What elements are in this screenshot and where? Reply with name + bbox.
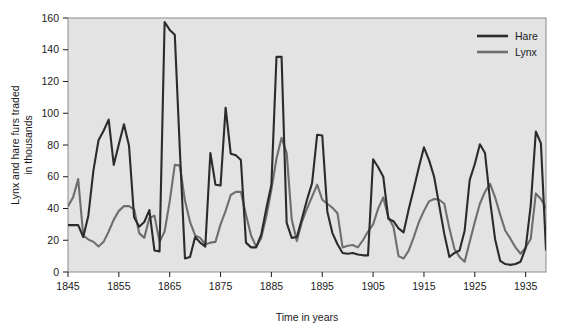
- svg-text:Lynx and hare furs traded: Lynx and hare furs traded: [9, 85, 21, 204]
- y-tick-label: 20: [47, 234, 59, 246]
- x-tick-label: 1875: [209, 280, 233, 292]
- legend-label-lynx: Lynx: [515, 46, 538, 58]
- x-tick-label: 1845: [56, 280, 80, 292]
- y-tick-label: 160: [41, 12, 59, 24]
- x-axis-title: Time in years: [276, 311, 339, 323]
- y-tick-label: 0: [53, 266, 59, 278]
- x-tick-label: 1865: [158, 280, 182, 292]
- y-tick-label: 60: [47, 170, 59, 182]
- y-tick-label: 120: [41, 75, 59, 87]
- y-tick-label: 80: [47, 139, 59, 151]
- x-tick-label: 1895: [311, 280, 335, 292]
- x-tick-label: 1855: [107, 280, 131, 292]
- svg-text:in thousands: in thousands: [22, 115, 34, 175]
- y-tick-label: 40: [47, 202, 59, 214]
- x-tick-label: 1915: [412, 280, 436, 292]
- x-tick-label: 1925: [463, 280, 487, 292]
- x-tick-label: 1905: [361, 280, 385, 292]
- y-tick-label: 100: [41, 107, 59, 119]
- x-tick-label: 1885: [260, 280, 284, 292]
- line-chart: 020406080100120140160 184518551865187518…: [0, 0, 564, 334]
- y-tick-label: 140: [41, 43, 59, 55]
- legend-label-hare: Hare: [515, 30, 538, 42]
- x-tick-label: 1935: [514, 280, 538, 292]
- chart-page: 020406080100120140160 184518551865187518…: [0, 0, 564, 334]
